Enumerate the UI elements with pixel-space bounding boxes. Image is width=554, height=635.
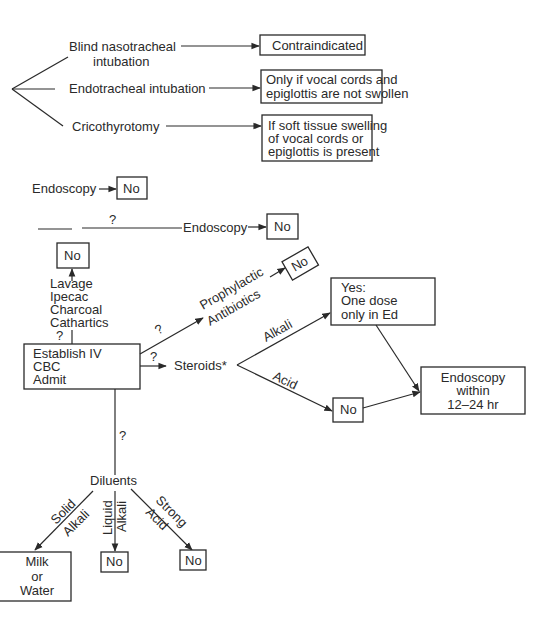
question-mark: ? xyxy=(150,349,157,364)
liquid-alkali-no-text: No xyxy=(106,554,123,569)
main-box-line: Admit xyxy=(33,372,67,387)
decontamination-section: No Lavage Ipecac Charcoal Cathartics ? xyxy=(50,243,109,344)
question-mark: ? xyxy=(56,328,63,343)
arrow xyxy=(376,325,419,391)
alkali-label: Alkali xyxy=(260,316,295,344)
arrow xyxy=(363,392,420,408)
endoscopy-question-no-text: No xyxy=(274,219,291,234)
blind-nasotracheal-label: Blind nasotracheal xyxy=(69,39,176,54)
milk-line: Water xyxy=(20,583,55,598)
diluents-label: Diluents xyxy=(90,473,137,488)
main-box-section: Establish IV CBC Admit xyxy=(24,344,140,389)
liquid-label: Liquid xyxy=(100,500,115,535)
endoscopy-within-line: 12–24 hr xyxy=(447,397,499,412)
arrow xyxy=(270,268,285,277)
diluents-section: ? Diluents Solid Alkali Liquid Alkali St… xyxy=(0,389,206,601)
question-mark: ? xyxy=(109,212,116,227)
branch-line xyxy=(12,57,68,89)
endoscopy-question-section: ? Endoscopy No xyxy=(38,212,298,239)
endotracheal-result-line: Only if vocal cords and xyxy=(266,72,398,87)
flowchart: Blind nasotracheal intubation Contraindi… xyxy=(0,0,554,635)
cricothyrotomy-label: Cricothyrotomy xyxy=(72,119,160,134)
cricothyrotomy-result-line: epiglottis is present xyxy=(268,144,380,159)
blind-nasotracheal-label-2: intubation xyxy=(93,54,149,69)
decontamination-no-text: No xyxy=(64,248,81,263)
airway-section: Blind nasotracheal intubation Contraindi… xyxy=(12,35,408,161)
branch-line xyxy=(12,89,63,126)
alkali-label: Alkali xyxy=(114,501,129,532)
endotracheal-result-line: epiglottis are not swollen xyxy=(266,86,408,101)
acid-no-text: No xyxy=(340,402,357,417)
milk-line: Milk xyxy=(25,554,49,569)
contraindicated-text: Contraindicated xyxy=(272,38,363,53)
endoscopy-within-line: within xyxy=(455,383,489,398)
milk-line: or xyxy=(31,569,43,584)
yes-line: only in Ed xyxy=(341,307,398,322)
endotracheal-label: Endotracheal intubation xyxy=(69,81,206,96)
endoscopy-top-section: Endoscopy No xyxy=(32,177,147,199)
steroids-label: Steroids* xyxy=(174,358,227,373)
strong-acid-no-text: No xyxy=(185,553,202,568)
endoscopy-label: Endoscopy xyxy=(183,220,248,235)
endoscopy-no-text: No xyxy=(123,181,140,196)
antibiotics-section: ? Prophylactic Antibiotics No xyxy=(140,247,318,354)
question-mark: ? xyxy=(152,321,166,338)
question-mark: ? xyxy=(119,428,126,443)
endoscopy-label: Endoscopy xyxy=(32,181,97,196)
yes-line: One dose xyxy=(341,293,397,308)
